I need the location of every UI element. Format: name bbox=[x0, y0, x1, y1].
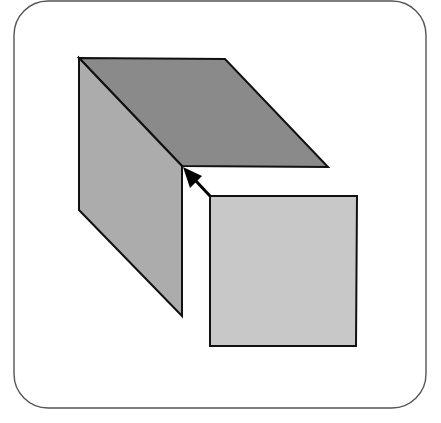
front-face bbox=[210, 196, 357, 346]
cube-fold-diagram: Cube face folding into place bbox=[0, 0, 441, 423]
